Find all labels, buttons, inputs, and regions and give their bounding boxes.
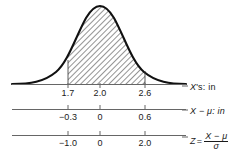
z-axis-tick-label-1: −1.0 (59, 138, 77, 148)
x-minus-mu-tick-label-2: 0 (97, 112, 102, 122)
z-axis-fraction: X − μσ (204, 132, 228, 152)
z-axis-tick-label-3: 2.0 (139, 138, 152, 148)
x-minus-mu-caption-rest: − μ: in (196, 106, 225, 116)
normal-distribution-figure: 1.7 2.0 2.6 −0.3 0 0.6 −1.0 0 2.0 X's: i… (0, 0, 242, 164)
z-axis-fraction-denominator: σ (204, 142, 228, 151)
x-axis-caption: X's: in (190, 82, 216, 92)
x-minus-mu-axis-caption: X − μ: in (190, 106, 225, 116)
x-minus-mu-tick-label-3: 0.6 (139, 112, 152, 122)
x-axis-caption-rest: 's: in (196, 82, 215, 92)
x-axis-tick-label-2: 2.0 (94, 88, 107, 98)
x-axis-tick-label-3: 2.6 (139, 88, 152, 98)
z-axis-equals-sign: = (196, 136, 203, 146)
x-minus-mu-tick-label-1: −0.3 (59, 112, 77, 122)
shaded-area (68, 0, 145, 84)
z-axis-caption-symbol: Z (190, 136, 196, 146)
x-axis-tick-label-1: 1.7 (62, 88, 75, 98)
z-axis-tick-label-2: 0 (97, 138, 102, 148)
z-axis-caption: Z=X − μσ (190, 132, 228, 152)
